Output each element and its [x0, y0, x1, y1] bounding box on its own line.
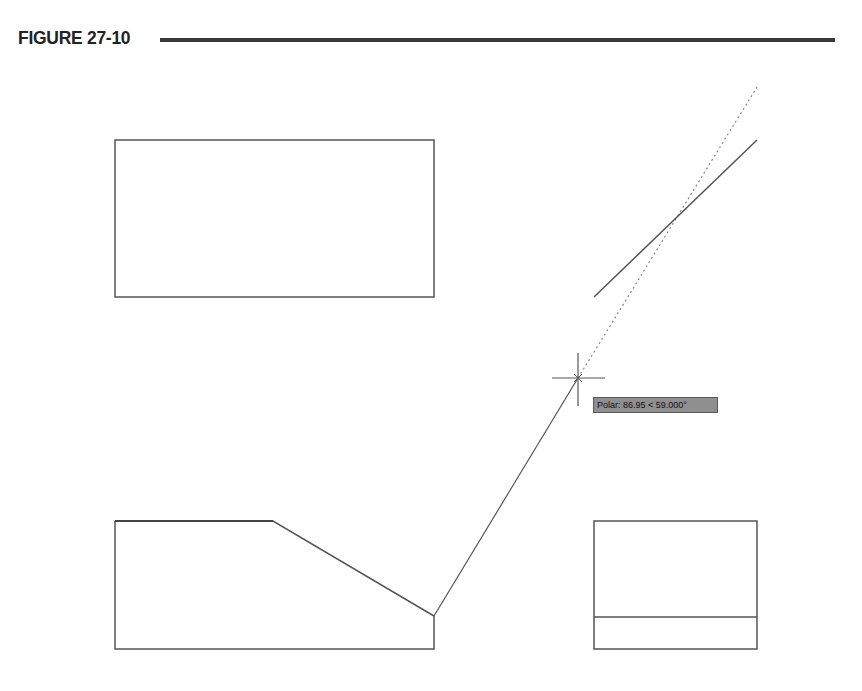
polar-tracking-line: [578, 87, 757, 378]
reference-angle-line: [594, 140, 757, 297]
polar-tooltip: Polar: 86.95 < 59.000°: [593, 397, 718, 413]
polar-line-segment: [434, 378, 578, 616]
cad-drawing-canvas[interactable]: [0, 0, 862, 691]
side-view-rectangle: [594, 521, 757, 649]
front-view-outline: [115, 521, 434, 649]
top-view-rectangle: [115, 140, 434, 297]
polar-tooltip-text: Polar: 86.95 < 59.000°: [597, 400, 687, 410]
